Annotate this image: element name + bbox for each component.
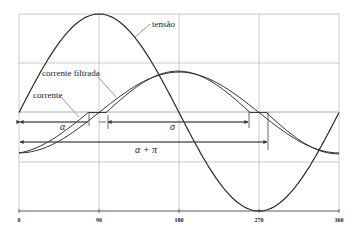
- waveform-chart: 0 90 180 270 360 tensão corrente filtrad…: [0, 0, 359, 235]
- x-axis: [19, 209, 339, 213]
- tick-270: 270: [255, 217, 264, 223]
- tick-90: 90: [96, 217, 102, 223]
- label-tensao: tensão: [152, 19, 175, 29]
- chart-svg: 0 90 180 270 360 tensão corrente filtrad…: [0, 0, 359, 235]
- tick-360: 360: [335, 217, 344, 223]
- label-sigma: σ: [170, 121, 176, 132]
- alpha-arrow: [20, 112, 89, 126]
- label-alpha-pi: α + π: [135, 144, 158, 155]
- label-alpha: α: [60, 121, 66, 132]
- tick-0: 0: [18, 217, 21, 223]
- label-corrente: corrente: [33, 90, 62, 100]
- label-corrente-filtrada: corrente filtrada: [42, 68, 100, 78]
- tick-180: 180: [175, 217, 184, 223]
